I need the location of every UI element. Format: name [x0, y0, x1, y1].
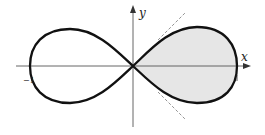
shaded-region — [133, 27, 237, 103]
y-axis-arrow-icon — [130, 5, 136, 13]
lemniscate-diagram: y x −1 — [0, 0, 265, 135]
x-axis-label: x — [241, 50, 248, 64]
diagram-canvas: y x −1 — [0, 0, 265, 135]
tick-label-left: −1 — [23, 76, 35, 85]
y-axis-label: y — [138, 6, 146, 20]
